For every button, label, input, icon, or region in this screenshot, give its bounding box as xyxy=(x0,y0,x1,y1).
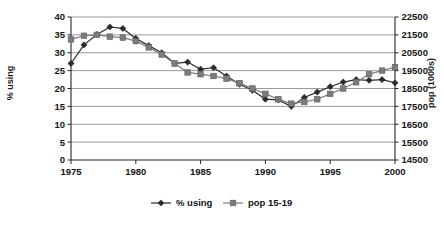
series-pop-15-19 xyxy=(68,32,398,106)
data-point-square xyxy=(276,96,282,102)
data-point-square xyxy=(68,37,74,43)
y-axis-right-tick-label: 22500 xyxy=(402,11,428,22)
series-line xyxy=(71,35,395,104)
data-point-square xyxy=(392,64,398,70)
data-point-square xyxy=(133,38,139,44)
data-point-square xyxy=(198,71,204,77)
legend-label: pop 15-19 xyxy=(248,197,292,208)
chart-container: % using pop (1000s) 05101520253035401450… xyxy=(0,0,444,225)
data-point-square xyxy=(289,101,295,107)
y-axis-right-tick-label: 16500 xyxy=(402,119,428,130)
y-axis-right-tick-label: 17500 xyxy=(402,101,428,112)
x-axis-tick-label: 2000 xyxy=(384,166,405,177)
data-point-square xyxy=(314,96,320,102)
data-point-square xyxy=(159,52,165,58)
data-point-diamond xyxy=(210,65,216,71)
data-point-diamond xyxy=(366,77,372,83)
data-point-square xyxy=(120,35,126,41)
y-axis-right-tick-label: 20500 xyxy=(402,47,428,58)
y-axis-right-tick-label: 15500 xyxy=(402,137,428,148)
y-axis-left-tick-label: 40 xyxy=(54,11,65,22)
data-point-square xyxy=(185,70,191,76)
y-axis-left-tick-label: 35 xyxy=(54,29,65,40)
data-point-square xyxy=(250,86,256,92)
data-point-diamond xyxy=(379,76,385,82)
chart-plot-area: 0510152025303540145001550016500175001850… xyxy=(0,0,444,225)
data-point-square xyxy=(301,99,307,105)
legend-marker-square xyxy=(230,200,236,206)
data-point-square xyxy=(366,71,372,77)
data-point-square xyxy=(327,91,333,97)
y-axis-left-tick-label: 0 xyxy=(60,154,65,165)
y-axis-left-tick-label: 10 xyxy=(54,119,65,130)
data-point-square xyxy=(224,76,230,82)
data-point-square xyxy=(379,68,385,74)
x-axis-tick-label: 1975 xyxy=(60,166,82,177)
data-point-diamond xyxy=(340,79,346,85)
chart-legend: % usingpop 15-19 xyxy=(151,197,292,208)
y-axis-right-tick-label: 14500 xyxy=(402,154,428,165)
data-point-square xyxy=(94,32,100,38)
y-axis-left-tick-label: 15 xyxy=(54,101,65,112)
y-axis-left-tick-label: 25 xyxy=(54,65,65,76)
data-point-diamond xyxy=(185,59,191,65)
data-point-square xyxy=(211,73,217,79)
x-axis-tick-label: 1995 xyxy=(320,166,342,177)
x-axis-tick-label: 1980 xyxy=(125,166,146,177)
data-point-diamond xyxy=(392,80,398,86)
data-point-square xyxy=(237,80,243,86)
data-point-diamond xyxy=(314,89,320,95)
data-point-square xyxy=(353,79,359,85)
legend-label: % using xyxy=(176,197,213,208)
y-axis-left-tick-label: 5 xyxy=(60,137,66,148)
x-axis-tick-label: 1990 xyxy=(255,166,276,177)
data-point-diamond xyxy=(107,24,113,30)
data-point-square xyxy=(81,33,87,39)
y-axis-right-tick-label: 21500 xyxy=(402,29,428,40)
legend-marker-diamond xyxy=(158,200,164,206)
y-axis-right-tick-label: 19500 xyxy=(402,65,428,76)
series-line xyxy=(71,27,395,106)
data-point-square xyxy=(146,45,152,51)
data-point-square xyxy=(107,34,113,40)
y-axis-right-tick-label: 18500 xyxy=(402,83,428,94)
data-point-square xyxy=(172,61,178,67)
y-axis-left-tick-label: 20 xyxy=(54,83,65,94)
x-axis-tick-label: 1985 xyxy=(190,166,212,177)
data-point-square xyxy=(263,91,269,97)
y-axis-left-tick-label: 30 xyxy=(54,47,65,58)
data-point-square xyxy=(340,86,346,92)
